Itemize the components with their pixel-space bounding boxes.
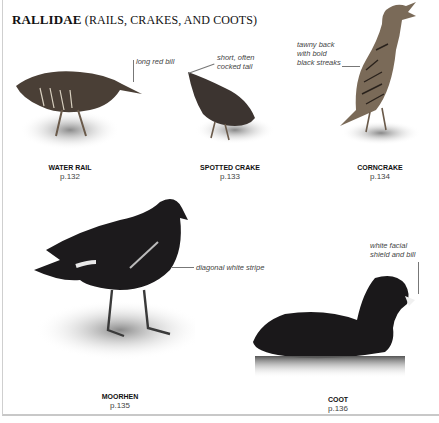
spotted-crake-label: SPOTTED CRAKE p.133 — [195, 163, 265, 181]
coot-label: COOT p.136 — [308, 395, 368, 413]
moorhen-label: MOORHEN p.135 — [90, 392, 150, 410]
water-rail-name: WATER RAIL — [40, 163, 100, 172]
moorhen-name: MOORHEN — [90, 392, 150, 401]
water-rail-leader-line — [133, 60, 134, 82]
water-rail-annotation: long red bill — [136, 57, 174, 66]
moorhen-annotation: diagonal white stripe — [196, 263, 264, 272]
corncrake-leader-line — [342, 66, 360, 67]
coot-page: p.136 — [308, 404, 368, 413]
section-heading: RALLIDAE (RAILS, CRAKES, AND COOTS) — [12, 12, 257, 28]
family-name: RALLIDAE — [12, 12, 81, 27]
spotted-crake-illustration-icon — [185, 68, 275, 153]
corncrake-illustration-icon — [336, 0, 436, 150]
water-rail-page: p.132 — [40, 172, 100, 181]
moorhen-illustration-icon — [20, 190, 195, 360]
spotted-crake-name: SPOTTED CRAKE — [195, 163, 265, 172]
coot-name: COOT — [308, 395, 368, 404]
moorhen-leader-line — [172, 267, 194, 268]
spotted-crake-annotation: short, often cocked tail — [217, 53, 255, 71]
corncrake-label: CORNCRAKE p.134 — [350, 163, 410, 181]
coot-annotation: white facial shield and bill — [370, 241, 415, 259]
water-rail-illustration-icon — [10, 58, 150, 153]
water-rail-label: WATER RAIL p.132 — [40, 163, 100, 181]
spotted-crake-page: p.133 — [195, 172, 265, 181]
coot-illustration-icon — [245, 272, 425, 382]
corncrake-name: CORNCRAKE — [350, 163, 410, 172]
family-common-name: (RAILS, CRAKES, AND COOTS) — [85, 13, 257, 27]
moorhen-page: p.135 — [90, 401, 150, 410]
coot-leader-line — [418, 262, 419, 294]
corncrake-annotation: tawny back with bold black streaks — [297, 40, 341, 67]
corncrake-page: p.134 — [350, 172, 410, 181]
